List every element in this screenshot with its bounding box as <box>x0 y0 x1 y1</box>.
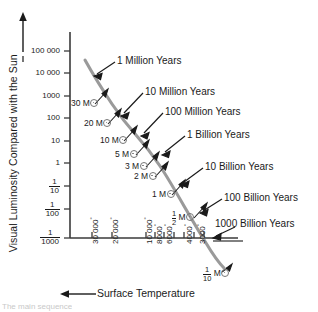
x-tick-value: 4000 <box>185 226 194 244</box>
mass-denominator: 10 <box>203 275 211 283</box>
sun-symbol-icon <box>90 99 98 107</box>
sun-symbol-icon <box>186 213 194 221</box>
x-tick-label-6000: 6000° <box>163 224 174 244</box>
y-tick-label-1000: 1000 <box>14 92 60 100</box>
mass-value: 1 M <box>152 189 166 199</box>
mass-label-3-msun: 3 M <box>125 162 148 171</box>
annotation-100-million-years: 100 Million Years <box>165 107 241 117</box>
mass-value: 20 M <box>84 118 103 128</box>
mass-value: 10 M <box>100 135 119 145</box>
sun-symbol-icon <box>167 190 175 198</box>
x-tick-value: 6000 <box>165 226 174 244</box>
mass-label-5-msun: 5 M <box>115 150 138 159</box>
mass-label-one-tenth-msun: 1 10 M <box>203 266 229 282</box>
mass-value: M <box>179 212 186 222</box>
degree-icon: ° <box>109 217 115 219</box>
mass-value: 5 M <box>115 149 129 159</box>
x-axis-arrow-icon <box>60 290 96 298</box>
y-tick-denominator: 10 <box>49 187 60 195</box>
y-tick-label-100: 100 <box>14 114 60 122</box>
y-tick-label-one-thousandth: 1 1000 <box>14 229 60 246</box>
mass-denominator: 2 <box>172 219 176 227</box>
mass-label-30-msun: 30 M <box>71 99 98 108</box>
sun-symbol-icon <box>149 172 157 180</box>
mass-label-10-msun: 10 M <box>100 136 127 145</box>
sun-symbol-icon <box>221 269 229 277</box>
x-tick-value: 3000 <box>198 226 207 244</box>
x-tick-label-4000: 4000° <box>183 224 194 244</box>
x-tick-value: 20 000 <box>111 220 120 244</box>
mass-value: 2 M <box>134 171 148 181</box>
degree-icon: ° <box>196 224 202 226</box>
y-tick-denominator: 1000 <box>40 238 60 246</box>
x-tick-label-20000: 20 000° <box>109 217 120 244</box>
annotation-1-billion-years: 1 Billion Years <box>187 130 250 140</box>
y-axis-ticks <box>64 51 70 238</box>
x-tick-value: 30 000 <box>91 220 100 244</box>
mass-value: M <box>214 268 221 278</box>
annotation-10-million-years: 10 Million Years <box>145 87 215 97</box>
y-tick-label-one-tenth: 1 10 <box>14 178 60 195</box>
annotation-10-billion-years: 10 Billion Years <box>205 162 273 172</box>
sun-symbol-icon <box>103 119 111 127</box>
mass-value: 3 M <box>125 161 139 171</box>
degree-icon: ° <box>163 224 169 226</box>
x-tick-label-3000: 3000° <box>196 224 207 244</box>
hr-diagram-figure: Visual Luminosity Compared with the Sun … <box>0 0 318 312</box>
degree-icon: ° <box>143 217 149 219</box>
y-tick-label-1: 1 <box>14 159 60 167</box>
mass-label-2-msun: 2 M <box>134 172 157 181</box>
figure-caption-cutoff: The main sequence <box>2 303 72 311</box>
mass-label-1-msun: 1 M <box>152 190 175 199</box>
mass-value: 30 M <box>71 98 90 108</box>
sun-symbol-icon <box>119 136 127 144</box>
y-tick-label-10000: 10 000 <box>14 69 60 77</box>
sun-symbol-icon <box>130 150 138 158</box>
y-tick-label-10: 10 <box>14 137 60 145</box>
x-tick-label-30000: 30 000° <box>89 217 100 244</box>
y-axis-arrow-icon <box>19 12 27 52</box>
y-tick-label-100000: 100 000 <box>14 47 60 55</box>
annotation-100-billion-years: 100 Billion Years <box>224 193 298 203</box>
sun-symbol-icon <box>140 162 148 170</box>
x-axis-title: Surface Temperature <box>97 288 195 299</box>
y-tick-denominator: 100 <box>45 210 60 218</box>
y-tick-label-one-hundredth: 1 100 <box>14 201 60 218</box>
degree-icon: ° <box>89 217 95 219</box>
degree-icon: ° <box>153 224 159 226</box>
annotation-1000-billion-years: 1000 Billion Years <box>215 219 295 229</box>
mass-label-half-msun: 1 2 M <box>172 210 194 226</box>
mass-label-20-msun: 20 M <box>84 119 111 128</box>
annotation-1-million-years: 1 Million Years <box>117 56 181 66</box>
